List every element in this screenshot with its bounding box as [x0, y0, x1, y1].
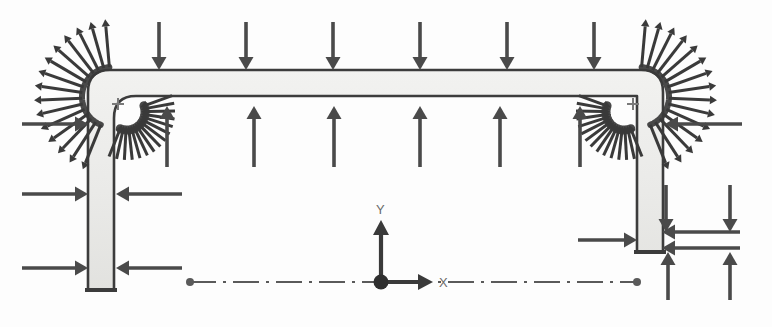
x-axis-label: X [439, 275, 448, 290]
structural-load-diagram: X Y [0, 0, 772, 327]
right-inner-vertical-downward-1-head [723, 219, 738, 232]
top-right-inner-moment-fan-hub-arc [606, 106, 631, 130]
top-beam-downward-distributed-load-2-head [326, 57, 341, 70]
top-right-outer-moment-fan-spoke-6-shaft [669, 98, 710, 100]
coordinate-axes [373, 220, 433, 290]
top-left-inner-moment-fan-spoke-12-shaft [148, 111, 175, 112]
top-right-outer-moment-fan-spoke-14-head [641, 19, 649, 26]
beam-soffit-upward-distributed-load-4-head [493, 106, 508, 119]
top-left-inner-moment-fan-hub-arc [120, 106, 145, 130]
top-right-inner-moment-fan-spoke-12-shaft [625, 133, 626, 160]
right-inner-vertical-downward [659, 185, 738, 232]
beam-soffit-upward-distributed-load-1-head [247, 106, 262, 119]
top-right-outer-moment-fan-spoke-5-head [707, 109, 715, 117]
top-beam-downward-distributed-load-0-head [152, 57, 167, 70]
beam-soffit-upward-distributed-load-3-head [413, 106, 428, 119]
top-left-outer-moment-fan-spoke-9-head [36, 109, 44, 117]
right-base-upward-reactions [661, 252, 738, 300]
left-column-inner-pressure-0-head [116, 187, 129, 202]
y-axis-arrow-head [373, 220, 389, 235]
beam-soffit-upward-distributed-load [160, 106, 588, 167]
node-marker-layer [112, 98, 639, 110]
beam-soffit-upward-distributed-load-2-head [327, 106, 342, 119]
left-column-outer-pressure-1-head [75, 187, 88, 202]
top-right-outer-moment-fan-spoke-7-head [709, 82, 717, 90]
top-left-outer-moment-fan-spoke-0-shaft [106, 26, 110, 67]
top-left-outer-moment-fan-spoke-0-head [102, 19, 110, 26]
top-left-inner-moment-fan-spoke-3-shaft [129, 133, 132, 160]
top-left-outer-moment-fan-spoke-1-head [88, 22, 96, 30]
top-right-outer-moment-fan-spoke-13-head [654, 22, 662, 30]
top-left-inner-moment-fan-spoke-2-shaft [124, 133, 125, 160]
y-axis-label: Y [376, 202, 385, 217]
top-beam-downward-distributed-load [152, 22, 602, 70]
top-beam-downward-distributed-load-4-head [500, 57, 515, 70]
top-left-outer-moment-fan-spoke-8-head [34, 96, 41, 104]
left-column-inner-pressure [116, 187, 182, 276]
frame-outline [88, 70, 663, 290]
load-diagram-canvas: X Y [0, 0, 772, 327]
top-beam-downward-distributed-load-5-head [587, 57, 602, 70]
top-right-outer-moment-fan-spoke-14-shaft [642, 26, 646, 67]
left-column-inner-pressure-1-head [116, 261, 129, 276]
right-column-base-inward-0-head [624, 233, 637, 248]
top-beam-downward-distributed-load-3-head [413, 57, 428, 70]
origin-node [374, 275, 389, 290]
right-inner-horizontal-left [662, 225, 740, 256]
right-column-base-inward [578, 233, 637, 248]
top-right-outer-moment-fan-spoke-7-shaft [669, 87, 710, 93]
top-left-outer-moment-fan-spoke-7-head [35, 82, 43, 90]
centerline-endpoint-right [633, 278, 641, 286]
top-beam-downward-distributed-load-1-head [239, 57, 254, 70]
centerline-endpoint-left [186, 278, 194, 286]
top-left-outer-moment-fan-spoke-7-shaft [42, 87, 83, 93]
x-axis-arrow-head [418, 274, 433, 290]
left-column-outer-pressure-2-head [75, 261, 88, 276]
right-base-upward-reactions-1-head [723, 252, 738, 265]
top-left-outer-moment-fan-spoke-8-shaft [41, 98, 82, 100]
top-right-inner-moment-fan-spoke-11-shaft [619, 133, 622, 160]
top-right-outer-moment-fan-spoke-6-head [710, 96, 717, 104]
